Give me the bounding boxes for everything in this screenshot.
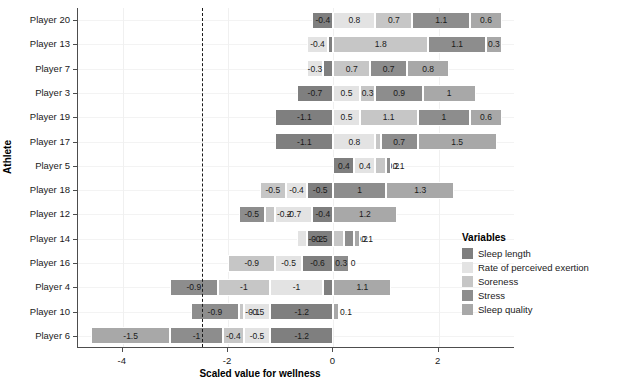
bar-value-label: 0.7 (346, 64, 358, 74)
y-tick-mark (73, 117, 77, 118)
y-tick-label: Player 20 (30, 14, 70, 26)
bar-value-label: -1.1 (297, 137, 312, 147)
legend-item: Sleep length (462, 247, 622, 260)
y-tick-label: Player 3 (35, 87, 70, 99)
y-tick-mark (73, 214, 77, 215)
x-axis-title: Scaled value for wellness (0, 368, 520, 379)
bar-row: -0.4-0.7-0.2-0.51.2 (78, 206, 514, 223)
bar-segment: -0.5 (307, 182, 333, 199)
bar-row: -0.2-1-1-0.91.1 (78, 279, 514, 296)
legend-label: Rate of perceived exertion (478, 262, 589, 273)
bar-value-label: -1.2 (294, 331, 309, 341)
bar-segment: 1.1 (412, 12, 470, 29)
bar-segment (297, 230, 308, 247)
bar-row: -1.2-0.5-0.1-0.90.1 (78, 303, 514, 320)
bar-segment: -0.9 (228, 255, 275, 272)
bar-value-label: 0.8 (422, 64, 434, 74)
bar-segment: -0.4 (312, 206, 333, 223)
bar-value-label: 0.1 (340, 303, 352, 320)
bar-value-label: 0.8 (348, 15, 360, 25)
bar-segment: -0.5 (275, 255, 301, 272)
y-tick-mark (73, 287, 77, 288)
bar-value-label: 0.7 (393, 137, 405, 147)
y-tick-mark (73, 190, 77, 191)
bar-row: -1.10.51.110.6 (78, 109, 514, 126)
bar-row: -0.1-0.41.81.10.3 (78, 36, 514, 53)
bar-segment: -0.6 (302, 255, 334, 272)
bar-segment: 0.4 (354, 157, 375, 174)
bar-segment (239, 303, 244, 320)
bar-value-label: 0.7 (388, 15, 400, 25)
grid-line-vertical (123, 8, 124, 347)
bar-value-label: 0.9 (393, 88, 405, 98)
reference-line (202, 8, 203, 347)
bar-value-label: -0.4 (310, 39, 325, 49)
bar-row: -0.2-0.30.70.70.8 (78, 60, 514, 77)
bar-segment: 1 (423, 85, 476, 102)
y-tick-mark (73, 263, 77, 264)
legend-swatch (462, 248, 473, 259)
y-tick-mark (73, 239, 77, 240)
bar-segment (323, 60, 334, 77)
bar-value-label: -1.5 (123, 331, 138, 341)
y-tick-label: Player 4 (35, 281, 70, 293)
bar-segment: -1 (170, 327, 223, 344)
bar-segment: -0.3 (307, 60, 323, 77)
bar-value-label: -0.4 (315, 15, 330, 25)
legend-items: Sleep lengthRate of perceived exertionSo… (462, 247, 622, 316)
y-tick-mark (73, 20, 77, 21)
bar-value-label: 0.7 (383, 64, 395, 74)
chart-figure: Athlete Scaled value for wellness -0.40.… (0, 0, 626, 391)
bar-segment: -0.4 (307, 36, 328, 53)
bar-segment: 1.1 (360, 109, 418, 126)
bar-value-label: 0.3 (335, 258, 347, 268)
y-tick-label: Player 18 (30, 184, 70, 196)
bar-segment: -1.2 (270, 303, 333, 320)
bar-value-label: 0.1 (393, 157, 405, 174)
bar-segment: 0.6 (470, 109, 502, 126)
legend-title: Variables (462, 232, 622, 243)
bar-segment: 1.3 (386, 182, 454, 199)
x-tick-mark (227, 348, 228, 352)
bar-segment: 1 (418, 109, 471, 126)
y-tick-label: Player 6 (35, 330, 70, 342)
bar-segment: -1 (270, 279, 323, 296)
bar-row: -1.10.80.10.71.5 (78, 133, 514, 150)
bar-segment (344, 230, 355, 247)
bar-value-label: 0.5 (341, 112, 353, 122)
legend-swatch (462, 304, 473, 315)
bar-segment: 0.5 (333, 109, 359, 126)
bar-value-label: -0.5 (244, 209, 259, 219)
bar-segment: 1 (333, 182, 386, 199)
bar-segment: -0.5 (260, 182, 286, 199)
bar-value-label: 0.3 (488, 39, 500, 49)
bar-value-label: 0.1 (361, 230, 373, 247)
bar-segment: 0.7 (375, 12, 412, 29)
bar-segment: -0.7 (297, 85, 334, 102)
legend-swatch (462, 262, 473, 273)
bar-value-label: 0.4 (338, 161, 350, 171)
bar-row: -0.5-0.20.20.20.1 (78, 230, 514, 247)
bar-value-label: -1.1 (297, 112, 312, 122)
bar-segment: -1.1 (275, 133, 333, 150)
legend-label: Soreness (478, 276, 518, 287)
bar-value-label: 0.3 (362, 88, 374, 98)
bar-value-label: -0.2 (277, 206, 292, 223)
bar-value-label: -0.9 (208, 307, 223, 317)
legend: Variables Sleep lengthRate of perceived … (462, 232, 622, 317)
y-tick-mark (73, 142, 77, 143)
bar-segment: 1.5 (418, 133, 497, 150)
bar-value-label: 1.1 (356, 282, 368, 292)
bar-segment: 0.6 (470, 12, 502, 29)
bar-segment: 0.8 (407, 60, 449, 77)
bar-value-label: 1.1 (435, 15, 447, 25)
y-tick-label: Player 7 (35, 63, 70, 75)
bar-value-label: 0.6 (480, 15, 492, 25)
bar-value-label: -1.2 (294, 307, 309, 317)
bar-segment: 0.7 (381, 133, 418, 150)
bar-segment: -1.2 (270, 327, 333, 344)
plot-panel: -0.40.80.71.10.6-0.1-0.41.81.10.3-0.2-0.… (77, 8, 514, 348)
legend-item: Rate of perceived exertion (462, 261, 622, 274)
bar-segment: 1.1 (428, 36, 486, 53)
bar-segment: -0.4 (312, 12, 333, 29)
